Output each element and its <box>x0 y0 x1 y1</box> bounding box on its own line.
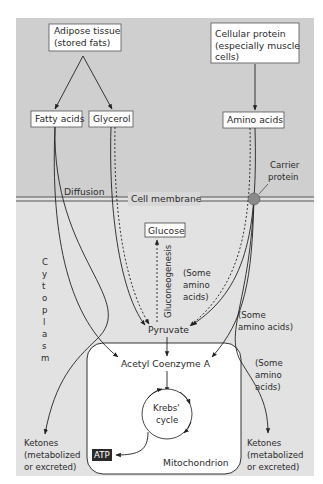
svg-text:a: a <box>42 329 47 339</box>
svg-text:y: y <box>42 269 47 279</box>
svg-text:(metabolized: (metabolized <box>247 450 303 460</box>
gluconeogenesis-label: Gluconeogenesis <box>163 244 173 318</box>
svg-text:o: o <box>42 293 47 303</box>
svg-text:Ketones: Ketones <box>247 438 282 448</box>
atp-badge: ATP <box>92 449 112 461</box>
svg-text:Cellular protein: Cellular protein <box>215 28 286 39</box>
svg-text:acids): acids) <box>183 292 209 302</box>
svg-text:amino: amino <box>183 280 210 290</box>
svg-text:Amino acids: Amino acids <box>227 114 283 125</box>
svg-text:Glucose: Glucose <box>148 225 185 236</box>
cellular-protein-box: Cellular protein (especially muscle cell… <box>211 23 300 63</box>
diffusion-label: Diffusion <box>64 186 105 197</box>
carrier-protein-label: Carrier <box>270 160 300 170</box>
svg-text:(Some: (Some <box>238 310 266 320</box>
svg-text:(metabolized: (metabolized <box>24 450 80 460</box>
svg-text:amino: amino <box>255 370 282 380</box>
mitochondrion-label: Mitochondrion <box>163 457 229 468</box>
cell-membrane-label: Cell membrane <box>131 193 202 204</box>
svg-text:(Some: (Some <box>183 268 211 278</box>
glucose-box: Glucose <box>145 223 185 237</box>
svg-text:acids): acids) <box>255 382 281 392</box>
svg-text:cycle: cycle <box>156 415 178 425</box>
svg-text:m: m <box>41 353 49 363</box>
svg-text:p: p <box>42 305 47 315</box>
pyruvate-label: Pyruvate <box>148 324 189 335</box>
svg-text:or excreted): or excreted) <box>24 462 76 472</box>
amino-acids-box: Amino acids <box>223 112 284 128</box>
svg-text:(stored fats): (stored fats) <box>54 37 110 48</box>
fat-protein-metabolism-diagram: Adipose tissue (stored fats) Cellular pr… <box>0 0 323 484</box>
glycerol-box: Glycerol <box>89 111 133 127</box>
svg-text:Adipose tissue: Adipose tissue <box>54 25 121 36</box>
svg-text:(Some: (Some <box>255 358 283 368</box>
adipose-tissue-box: Adipose tissue (stored fats) <box>49 24 121 51</box>
svg-text:amino acids): amino acids) <box>238 322 293 332</box>
krebs-cycle: Krebs' cycle <box>142 389 192 439</box>
svg-text:ATP: ATP <box>94 450 110 460</box>
svg-text:Ketones: Ketones <box>24 438 59 448</box>
some-amino-acids-mito: (Some amino acids) <box>255 358 283 392</box>
acetyl-coenzyme-a-label: Acetyl Coenzyme A <box>121 358 211 369</box>
svg-text:Krebs': Krebs' <box>153 403 180 413</box>
carrier-protein-icon <box>248 193 260 205</box>
some-amino-acids-inner: (Some amino acids) <box>183 268 211 302</box>
svg-text:l: l <box>43 317 45 327</box>
fatty-acids-box: Fatty acids <box>31 111 85 127</box>
svg-text:Glycerol: Glycerol <box>93 113 131 124</box>
svg-text:C: C <box>42 257 48 267</box>
svg-text:s: s <box>42 341 47 351</box>
svg-text:cells): cells) <box>215 51 239 62</box>
svg-text:Fatty acids: Fatty acids <box>35 113 85 124</box>
svg-text:or excreted): or excreted) <box>247 462 299 472</box>
svg-text:protein: protein <box>268 172 299 182</box>
svg-text:(especially muscle: (especially muscle <box>215 40 300 51</box>
